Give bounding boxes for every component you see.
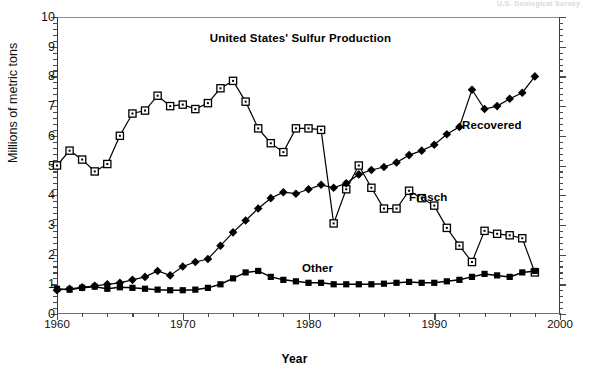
data-point bbox=[355, 162, 362, 169]
data-point bbox=[469, 274, 475, 280]
data-point bbox=[129, 110, 136, 117]
data-point bbox=[167, 103, 174, 110]
data-point bbox=[255, 268, 261, 274]
data-point bbox=[242, 98, 249, 105]
data-point bbox=[343, 281, 349, 287]
data-point bbox=[406, 279, 412, 285]
data-point bbox=[356, 281, 362, 287]
data-point bbox=[393, 205, 400, 212]
data-point bbox=[456, 242, 463, 249]
data-point bbox=[79, 156, 86, 163]
data-point bbox=[317, 181, 326, 190]
page-header-fragment: U.S. Geological Survey bbox=[497, 0, 585, 9]
data-point bbox=[317, 126, 324, 133]
data-point bbox=[79, 285, 85, 291]
data-point bbox=[154, 92, 161, 99]
data-point bbox=[507, 274, 513, 280]
data-point bbox=[494, 272, 500, 278]
data-point bbox=[92, 284, 98, 290]
data-point bbox=[417, 146, 426, 155]
data-point bbox=[431, 280, 437, 286]
data-point bbox=[318, 280, 324, 286]
data-point bbox=[279, 188, 288, 197]
data-point bbox=[192, 287, 198, 293]
y-tick-label: 4 bbox=[15, 189, 55, 202]
x-tick-label: 1960 bbox=[32, 319, 82, 331]
data-point bbox=[444, 278, 450, 284]
x-tick-label: 1970 bbox=[158, 319, 208, 331]
series-other bbox=[54, 268, 538, 294]
data-point bbox=[217, 85, 224, 92]
data-point bbox=[367, 166, 376, 175]
data-point bbox=[392, 158, 401, 167]
y-tick-label: 7 bbox=[15, 100, 55, 113]
data-point bbox=[393, 280, 399, 286]
data-point bbox=[405, 151, 414, 160]
data-point bbox=[155, 287, 161, 293]
y-tick-label: 9 bbox=[15, 41, 55, 54]
y-tick-label: 2 bbox=[15, 249, 55, 262]
data-point bbox=[255, 125, 262, 132]
data-point bbox=[481, 271, 487, 277]
data-point bbox=[167, 287, 173, 293]
data-point bbox=[179, 101, 186, 108]
data-point bbox=[304, 185, 313, 194]
data-point bbox=[104, 286, 110, 292]
data-point bbox=[468, 85, 477, 94]
y-tick-label: 6 bbox=[15, 130, 55, 143]
x-tick-label: 1990 bbox=[409, 319, 459, 331]
data-point bbox=[180, 287, 186, 293]
data-point bbox=[331, 281, 337, 287]
data-point bbox=[66, 147, 73, 154]
chart-figure: U.S. Geological Survey United States' Su… bbox=[0, 0, 589, 377]
data-point bbox=[192, 105, 199, 112]
data-point bbox=[292, 189, 301, 198]
y-tick-label: 10 bbox=[15, 11, 55, 24]
data-point bbox=[129, 285, 135, 291]
data-point bbox=[368, 184, 375, 191]
data-point bbox=[519, 269, 525, 275]
data-point bbox=[141, 107, 148, 114]
data-point bbox=[494, 230, 501, 237]
data-point bbox=[128, 276, 137, 285]
series-label-recovered: Recovered bbox=[462, 119, 522, 131]
series-label-other: Other bbox=[302, 262, 333, 274]
data-point bbox=[443, 224, 450, 231]
data-point bbox=[380, 205, 387, 212]
x-axis-title: Year bbox=[0, 352, 589, 366]
data-point bbox=[468, 258, 475, 265]
data-point bbox=[178, 262, 187, 271]
data-point bbox=[419, 280, 425, 286]
data-point bbox=[166, 271, 175, 280]
data-point bbox=[268, 274, 274, 280]
data-point bbox=[229, 77, 236, 84]
data-point bbox=[292, 125, 299, 132]
data-point bbox=[117, 284, 123, 290]
x-tick-label: 1980 bbox=[284, 319, 334, 331]
data-point bbox=[267, 140, 274, 147]
series-label-frasch: Frasch bbox=[409, 191, 447, 203]
data-point bbox=[243, 269, 249, 275]
data-point bbox=[381, 281, 387, 287]
data-point bbox=[230, 275, 236, 281]
data-point bbox=[532, 268, 538, 274]
data-point bbox=[380, 163, 389, 172]
series-line bbox=[57, 76, 535, 290]
data-point bbox=[53, 162, 60, 169]
data-point bbox=[217, 281, 223, 287]
data-point bbox=[141, 273, 150, 282]
data-point bbox=[204, 100, 211, 107]
y-tick-label: 8 bbox=[15, 70, 55, 83]
data-point bbox=[91, 168, 98, 175]
data-point bbox=[205, 285, 211, 291]
data-point bbox=[142, 286, 148, 292]
data-point bbox=[280, 277, 286, 283]
y-tick-label: 5 bbox=[15, 160, 55, 173]
data-point bbox=[493, 102, 502, 111]
data-point bbox=[305, 125, 312, 132]
data-point bbox=[456, 277, 462, 283]
data-point bbox=[329, 183, 338, 192]
data-point bbox=[505, 94, 514, 103]
data-point bbox=[519, 235, 526, 242]
data-point bbox=[191, 258, 200, 267]
